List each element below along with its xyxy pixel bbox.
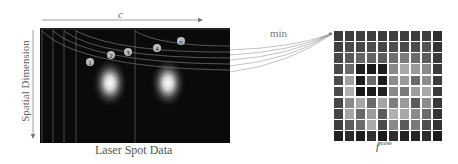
grid-cell [378,42,387,52]
grid-cell [400,31,409,41]
grid-cell [367,131,376,141]
grid-cell [422,109,431,119]
grid-cell [367,120,376,130]
grid-cell [389,87,398,97]
grid-cell [334,42,343,52]
grid-cell [356,31,365,41]
marker-2: 2 [109,52,113,60]
grid-cell [367,42,376,52]
grid-cell [356,120,365,130]
grid-cell [411,87,420,97]
grid-cell [422,64,431,74]
grid-cell [334,76,343,86]
grid-cell [334,98,343,108]
grid-cell [356,98,365,108]
grid-cell [400,42,409,52]
grid-cell [433,31,442,41]
grid-cell [345,31,354,41]
grid-cell [389,76,398,86]
grid-cell [411,109,420,119]
grid-cell [389,98,398,108]
grid-cell [334,109,343,119]
grid-cell [367,109,376,119]
grid-cell [389,53,398,63]
grid-cell [400,120,409,130]
grid-cell [367,53,376,63]
grid-cell [367,64,376,74]
grid-cell [378,87,387,97]
grid-cell [345,87,354,97]
grid-cell [356,87,365,97]
grid-cell [334,64,343,74]
grid-cell [411,53,420,63]
grid-cell [433,53,442,63]
marker-n: n [179,38,183,46]
grid-cell [334,131,343,141]
grid-cell [433,42,442,52]
grid-cell [433,76,442,86]
grid-cell [400,64,409,74]
grid-cell [422,53,431,63]
grid-cell [411,131,420,141]
grid-cell [433,98,442,108]
grid-cell [345,64,354,74]
grid-cell [400,109,409,119]
grid-cell [422,87,431,97]
grid-cell [400,98,409,108]
grid-cell [367,87,376,97]
grid-cell [433,87,442,97]
laser-spot-image: 1 2 3 4 n [40,28,230,143]
grid-cell [378,31,387,41]
grid-cell [334,120,343,130]
grid-cell [411,31,420,41]
grid-cell [422,98,431,108]
marker-1: 1 [88,59,92,67]
marker-4: 4 [155,45,159,53]
grid-cell [411,120,420,130]
grid-cell [411,76,420,86]
grid-cell [389,31,398,41]
grid-cell [389,120,398,130]
grid-cell [345,53,354,63]
grid-cell [367,31,376,41]
grid-cell [422,31,431,41]
grid-cell [400,131,409,141]
grid-cell [400,76,409,86]
grid-cell [378,64,387,74]
grid-cell [411,98,420,108]
grid-cell [389,64,398,74]
grid-cell [389,42,398,52]
grid-cell [378,109,387,119]
c-axis-label: c [118,8,123,20]
grid-cell [345,120,354,130]
grid-cell [422,131,431,141]
grid-cell [411,42,420,52]
grid-cell [356,109,365,119]
min-fan-lines [230,34,332,72]
grid-cell [400,87,409,97]
grid-cell [345,98,354,108]
laser-spot-data-caption: Laser Spot Data [95,143,172,158]
grid-cell [389,109,398,119]
grid-cell [378,53,387,63]
grid-cell [433,64,442,74]
grid-cell [345,131,354,141]
grid-cell [400,53,409,63]
grid-cell [345,76,354,86]
grid-cell [345,109,354,119]
grid-cell [433,120,442,130]
grid-cell [378,120,387,130]
grid-cell [356,53,365,63]
grid-cell [356,64,365,74]
min-operation-label: min [270,27,287,39]
grid-cell [433,109,442,119]
grid-cell [356,42,365,52]
grid-cell [411,64,420,74]
marker-3: 3 [126,49,130,57]
grid-cell [378,98,387,108]
grid-cell [433,131,442,141]
grid-cell [378,76,387,86]
noise-feature-grid [334,31,442,141]
grid-cell [356,131,365,141]
grid-cell [422,42,431,52]
